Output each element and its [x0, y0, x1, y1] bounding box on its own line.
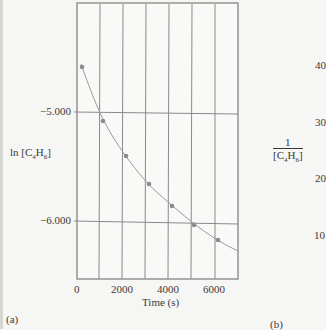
- panel-label-b: (b): [270, 318, 283, 330]
- y-axis-label-b: 1 [C4H6]: [273, 136, 303, 164]
- b-tick-20: 20: [315, 172, 326, 184]
- y-tick-minus6: −6.000: [40, 214, 71, 226]
- x-axis-label: Time (s): [142, 296, 179, 308]
- x-tick-2000: 2000: [111, 283, 133, 295]
- x-tick-0: 0: [74, 283, 80, 295]
- x-tick-6000: 6000: [203, 283, 225, 295]
- b-tick-30: 30: [315, 116, 326, 128]
- b-tick-10: 10: [314, 229, 325, 241]
- y-axis-label-a: ln [C4H6]: [10, 146, 51, 161]
- x-tick-4000: 4000: [157, 283, 179, 295]
- y-tick-minus5: −5.000: [40, 105, 71, 117]
- b-tick-40: 40: [315, 59, 326, 71]
- panel-label-a: (a): [6, 313, 18, 325]
